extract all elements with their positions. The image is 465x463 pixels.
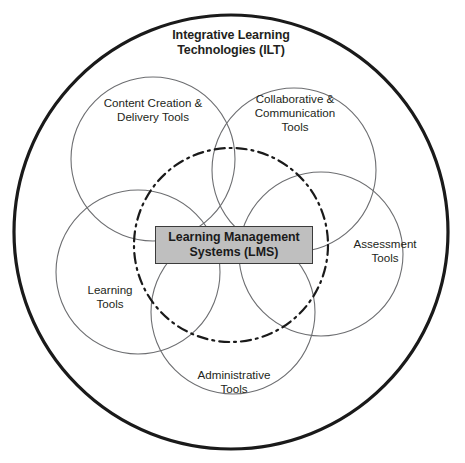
circle-content-creation (71, 77, 235, 241)
center-node-label: Learning Management Systems (LMS) (168, 230, 300, 261)
ilt-venn-diagram: Integrative Learning Technologies (ILT) … (0, 0, 465, 463)
center-node-lms: Learning Management Systems (LMS) (155, 226, 313, 264)
